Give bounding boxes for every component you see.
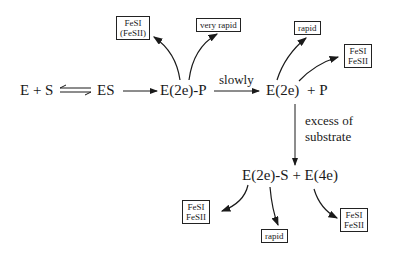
box-line: FeSII [344, 220, 364, 230]
node-e-plus-s: E + S [20, 83, 53, 98]
box-line: FeSI [344, 210, 364, 220]
box-fesi-fesii-bottom-left: FeSI FeSII [182, 200, 210, 224]
box-fesi-fesii-paren: FeSI (FeSII) [116, 16, 150, 40]
label-excess-of: excess of [305, 114, 353, 127]
node-e2e-p: E(2e)-P [160, 83, 207, 98]
node-e2e: E(2e) [266, 83, 299, 98]
box-rapid-top: rapid [294, 21, 321, 35]
box-line: FeSII [348, 56, 368, 66]
reaction-diagram: E + S ES E(2e)-P slowly E(2e) + P excess… [0, 0, 403, 253]
node-e2e-s-plus-e4e: E(2e)-S + E(4e) [242, 168, 338, 183]
box-line: FeSI [120, 18, 146, 28]
node-es: ES [97, 83, 115, 98]
box-line: FeSI [348, 46, 368, 56]
box-line: (FeSII) [120, 28, 146, 38]
box-fesi-fesii-right: FeSI FeSII [344, 44, 372, 68]
node-plus-p: + P [307, 83, 328, 98]
label-slowly: slowly [219, 73, 254, 86]
box-rapid-bottom: rapid [261, 229, 288, 243]
box-line: FeSII [186, 212, 206, 222]
box-line: FeSI [186, 202, 206, 212]
box-very-rapid: very rapid [196, 18, 241, 32]
label-substrate: substrate [305, 130, 351, 143]
box-fesi-fesii-bottom-right: FeSI FeSII [340, 208, 368, 232]
